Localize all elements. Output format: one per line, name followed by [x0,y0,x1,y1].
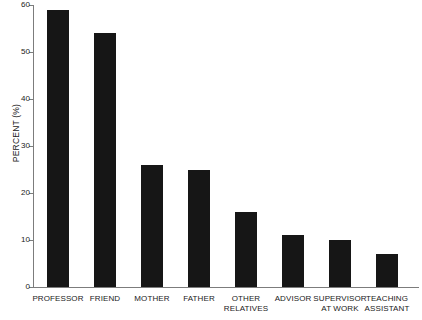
bar [329,240,351,287]
x-axis-label-line: ASSISTANT [347,304,422,314]
bar [235,212,257,287]
y-axis-tick-label: 60 [21,0,30,9]
bar [376,254,398,287]
bar [94,33,116,287]
x-axis-label-line: RELATIVES [206,304,286,314]
y-axis-tick-label: 30 [21,141,30,150]
bar [47,10,69,287]
y-axis-title: PERCENT (%) [11,73,21,193]
y-axis-line [33,5,34,287]
x-axis-label-line: TEACHING [347,294,422,304]
x-axis-label: TEACHINGASSISTANT [347,294,422,314]
x-axis-line [33,287,419,288]
y-axis-tick-label: 10 [21,235,30,244]
y-axis-tick-label: 50 [21,47,30,56]
bar [188,170,210,288]
bar [141,165,163,287]
y-axis-tick-label: 40 [21,94,30,103]
y-axis-tick-label: 0 [26,282,30,291]
bar [282,235,304,287]
plot-area: 0102030405060 PROFESSORFRIENDMOTHERFATHE… [33,5,419,287]
y-axis-tick-label: 20 [21,188,30,197]
bar-chart: PERCENT (%) 0102030405060 PROFESSORFRIEN… [0,0,422,320]
